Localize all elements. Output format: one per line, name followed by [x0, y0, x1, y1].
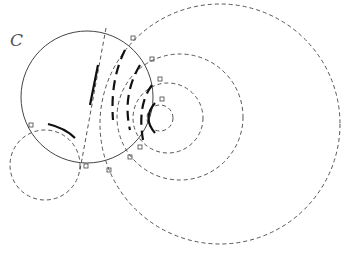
bold-arcs — [48, 50, 155, 140]
dashed-circle-large — [100, 4, 340, 244]
dashed-circle-left — [10, 130, 80, 200]
orthogonal-circles-figure — [0, 0, 341, 258]
diagram: C — [0, 0, 341, 258]
dashed-circle-small — [133, 83, 203, 153]
main-circle — [21, 31, 153, 163]
